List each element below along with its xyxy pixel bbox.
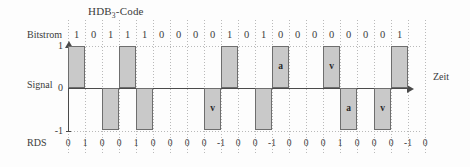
bitstream-cell: 1 (136, 28, 153, 42)
rds-cell: 0 (196, 136, 213, 150)
hdb3-code-figure: HDB3-Code Bitstrom Signal RDS Zeit 1 0 -… (0, 0, 470, 167)
title-tail: -Code (116, 5, 144, 17)
bitstream-cell: 0 (357, 28, 374, 42)
signal-pulse-marked-v: v (323, 46, 340, 88)
bitstream-cell: 1 (391, 28, 408, 42)
signal-pulse (68, 46, 85, 88)
rds-cell: 0 (349, 136, 366, 150)
rds-cell: 0 (417, 136, 434, 150)
rds-cell: -1 (213, 136, 230, 150)
rds-cell: 0 (281, 136, 298, 150)
signal-pulse-marked-v: v (204, 88, 221, 130)
rds-cell: -1 (400, 136, 417, 150)
rds-cell: -1 (264, 136, 281, 150)
signal-pulse-marked-a: a (272, 46, 289, 88)
row-label-bitstream: Bitstrom (27, 29, 62, 40)
rds-cell: 0 (383, 136, 400, 150)
tick-mark-minus1 (66, 131, 71, 132)
bitstream-cell: 0 (374, 28, 391, 42)
figure-title: HDB3-Code (88, 5, 144, 20)
gridline-level-minus1 (68, 131, 420, 132)
bitstream-cell: 1 (255, 28, 272, 42)
bitstream-cell: 1 (102, 28, 119, 42)
row-label-rds: RDS (27, 137, 46, 148)
bitstream-cell: 1 (221, 28, 238, 42)
rds-cell: 0 (162, 136, 179, 150)
signal-pulse (255, 88, 272, 130)
rds-cell: 0 (60, 136, 77, 150)
bitstream-cell: 0 (323, 28, 340, 42)
bitstream-cell: 1 (68, 28, 85, 42)
bitstream-cell: 0 (85, 28, 102, 42)
rds-cell: 0 (230, 136, 247, 150)
axis-label-zeit: Zeit (433, 71, 449, 82)
bitstream-cell: 0 (153, 28, 170, 42)
bitstream-cell: 0 (272, 28, 289, 42)
bitstream-cell: 0 (289, 28, 306, 42)
y-tick-label-minus1: -1 (47, 125, 63, 136)
y-tick-label-0: 0 (47, 82, 63, 93)
rds-cell: 1 (332, 136, 349, 150)
signal-pulse (221, 46, 238, 88)
bitstream-cell: 0 (238, 28, 255, 42)
title-main: HDB (88, 5, 112, 17)
x-axis-arrow (407, 85, 414, 93)
signal-pulse (391, 46, 408, 88)
y-tick-label-1: 1 (47, 40, 63, 51)
bitstream-cell: 0 (340, 28, 357, 42)
signal-pulse-marked-v: v (374, 88, 391, 130)
rds-cell: 0 (179, 136, 196, 150)
bitstream-cell: 0 (187, 28, 204, 42)
bitstream-cell: 0 (204, 28, 221, 42)
signal-pulse (119, 46, 136, 88)
rds-cell: 0 (298, 136, 315, 150)
rds-cell: 1 (128, 136, 145, 150)
signal-pulse (102, 88, 119, 130)
bitstream-cell: 1 (119, 28, 136, 42)
signal-pulse-marked-a: a (340, 88, 357, 130)
signal-pulse (136, 88, 153, 130)
bitstream-cell: 0 (170, 28, 187, 42)
x-axis (68, 88, 408, 89)
rds-cell: 0 (366, 136, 383, 150)
bitstream-cell: 0 (306, 28, 323, 42)
gridline-column (425, 20, 426, 155)
rds-cell: 0 (315, 136, 332, 150)
rds-cell: 0 (247, 136, 264, 150)
rds-cell: 1 (77, 136, 94, 150)
rds-cell: 0 (94, 136, 111, 150)
rds-cell: 0 (111, 136, 128, 150)
rds-cell: 0 (145, 136, 162, 150)
